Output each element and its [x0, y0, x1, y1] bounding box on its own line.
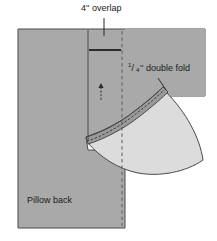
pillow-back-diagram: 4'' overlap 1 / 4 '' double fold Pillow … — [0, 0, 217, 241]
pillow-back-label: Pillow back — [27, 195, 73, 205]
double-fold-label-text: '' double fold — [140, 63, 190, 73]
diagram-canvas: 4'' overlap 1 / 4 '' double fold Pillow … — [0, 0, 217, 241]
overlap-label: 4'' overlap — [81, 3, 121, 13]
